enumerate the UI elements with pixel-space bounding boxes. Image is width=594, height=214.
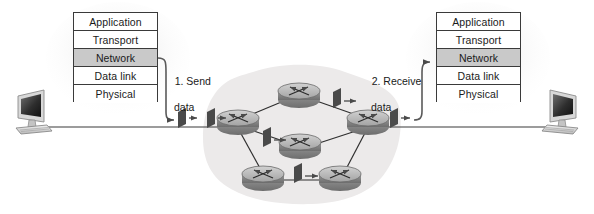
receive-data-label: 2. Receive data — [360, 62, 421, 140]
stack-left-layer-application[interactable]: Application — [74, 13, 157, 31]
stack-left-layer-physical[interactable]: Physical — [74, 85, 157, 103]
computer-sending-computer[interactable] — [16, 90, 52, 134]
stack-right-layer-data-link[interactable]: Data link — [437, 67, 520, 85]
router-r-southwest[interactable] — [242, 166, 284, 191]
send-data-label-line1: 1. Send — [175, 75, 211, 87]
send-data-label-line2: data — [163, 101, 211, 114]
router-r-west[interactable] — [217, 110, 259, 135]
stack-left-layer-data-link[interactable]: Data link — [74, 67, 157, 85]
receive-data-label-line1: 2. Receive — [372, 75, 422, 87]
router-r-southeast[interactable] — [319, 166, 361, 191]
send-data-label: 1. Send data — [163, 62, 211, 140]
computer-receiving-computer[interactable] — [542, 90, 578, 134]
stack-right-layer-application[interactable]: Application — [437, 13, 520, 31]
stack-right: Application Transport Network Data link … — [436, 12, 521, 102]
receive-data-label-line2: data — [360, 101, 421, 114]
stack-right-layer-transport[interactable]: Transport — [437, 31, 520, 49]
stack-left: Application Transport Network Data link … — [73, 12, 158, 102]
stack-left-layer-transport[interactable]: Transport — [74, 31, 157, 49]
router-r-north[interactable] — [278, 83, 320, 108]
network-diagram: Application Transport Network Data link … — [0, 0, 594, 214]
stack-right-layer-physical[interactable]: Physical — [437, 85, 520, 103]
stack-left-layer-network[interactable]: Network — [74, 49, 157, 67]
stack-right-layer-network[interactable]: Network — [437, 49, 520, 67]
router-r-center[interactable] — [279, 134, 321, 159]
